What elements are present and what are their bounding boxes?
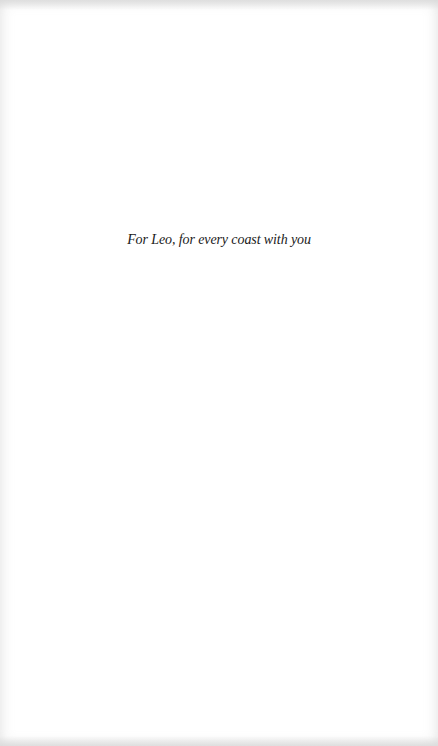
book-page: For Leo, for every coast with you [0, 0, 438, 746]
page-edge-shadow-top [0, 0, 438, 10]
page-edge-shadow-bottom [0, 736, 438, 746]
dedication-text: For Leo, for every coast with you [0, 230, 438, 250]
